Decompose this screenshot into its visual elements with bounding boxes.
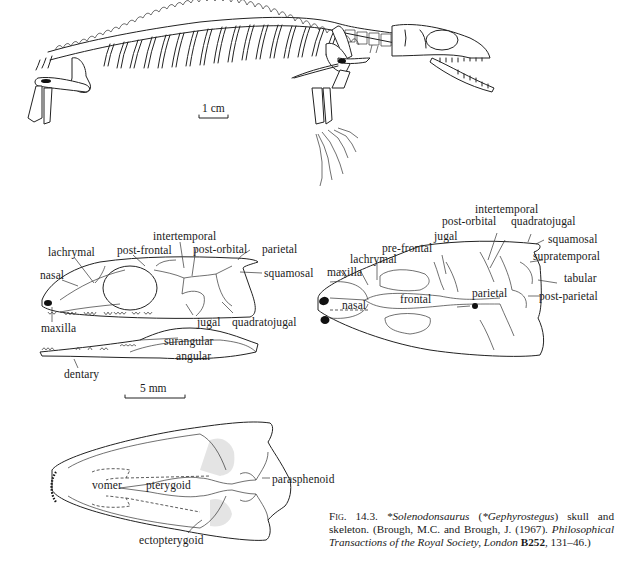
lateral-scale-bar-label: 5 mm bbox=[140, 382, 167, 394]
label-dorsal-post-orbital: post-orbital bbox=[442, 215, 496, 227]
label-palatal-parasphenoid: parasphenoid bbox=[272, 473, 335, 485]
label-palatal-pterygoid: pterygoid bbox=[146, 479, 191, 491]
figure-caption: Fig. 14.3. *Solenodonsaurus (*Gephyroste… bbox=[329, 510, 614, 549]
label-dorsal-nasal: nasal bbox=[342, 299, 366, 311]
label-dorsal-lachrymal: lachrymal bbox=[350, 253, 397, 265]
label-lateral-nasal: nasal bbox=[40, 269, 64, 281]
label-dorsal-tabular: tabular bbox=[564, 272, 597, 284]
caption-figure-number: Fig. 14.3. bbox=[329, 510, 378, 522]
caption-synonym: *Gephyrostegus bbox=[482, 510, 554, 522]
label-lateral-intertemporal: intertemporal bbox=[153, 230, 216, 242]
caption-pages: , 131–46.) bbox=[545, 536, 591, 548]
label-lateral-lachrymal: lachrymal bbox=[48, 246, 95, 258]
label-dorsal-post-parietal: post-parietal bbox=[539, 290, 598, 302]
label-dorsal-squamosal: squamosal bbox=[548, 233, 597, 245]
caption-taxon: *Solenodonsaurus bbox=[387, 510, 470, 522]
label-dorsal-supratemporal: supratemporal bbox=[533, 250, 600, 262]
label-lateral-post-frontal: post-frontal bbox=[117, 244, 172, 256]
label-lateral-quadratojugal: quadratojugal bbox=[232, 316, 297, 328]
label-dorsal-maxilla: maxilla bbox=[327, 266, 362, 278]
skeleton-scale-bar-label: 1 cm bbox=[202, 102, 225, 114]
label-dorsal-intertemporal: intertemporal bbox=[475, 203, 538, 215]
label-lateral-squamosal: squamosal bbox=[264, 267, 313, 279]
label-dorsal-jugal: jugal bbox=[434, 230, 458, 242]
skeleton-drawing bbox=[28, 0, 494, 186]
label-lateral-dentary: dentary bbox=[64, 368, 99, 380]
label-lateral-maxilla: maxilla bbox=[41, 322, 76, 334]
label-lateral-angular: angular bbox=[176, 350, 211, 362]
label-lateral-surangular: surangular bbox=[164, 335, 214, 347]
label-dorsal-quadratojugal: quadratojugal bbox=[511, 215, 576, 227]
label-lateral-jugal: jugal bbox=[197, 316, 221, 328]
label-lateral-parietal: parietal bbox=[262, 243, 297, 255]
skull-dorsal-drawing bbox=[318, 233, 557, 356]
caption-volume: B252 bbox=[518, 536, 545, 548]
label-palatal-ectopterygoid: ectopterygoid bbox=[139, 534, 204, 546]
label-dorsal-parietal: parietal bbox=[472, 287, 507, 299]
label-dorsal-frontal: frontal bbox=[400, 293, 431, 305]
label-palatal-vomer: vomer bbox=[92, 479, 122, 491]
caption-paren-open: ( bbox=[469, 510, 482, 522]
label-lateral-post-orbital: post-orbital bbox=[193, 243, 247, 255]
